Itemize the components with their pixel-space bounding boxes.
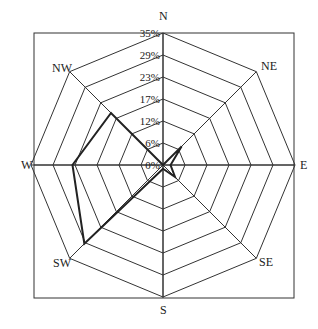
direction-label-ne: NE	[261, 59, 277, 73]
direction-label-e: E	[300, 158, 307, 172]
direction-label-se: SE	[259, 255, 273, 269]
ring-label: 6%	[145, 137, 160, 149]
ring-labels: 0%6%12%17%23%29%35%	[140, 27, 160, 171]
direction-label-s: S	[160, 303, 167, 317]
direction-label-nw: NW	[52, 61, 73, 75]
ring-label: 17%	[140, 93, 160, 105]
axis-spoke	[163, 165, 256, 258]
ring-label: 12%	[140, 115, 160, 127]
direction-label-sw: SW	[53, 256, 72, 270]
direction-label-n: N	[159, 9, 168, 23]
wind-rose-chart: 0%6%12%17%23%29%35% NNEESESSWWNW	[0, 0, 318, 329]
ring-label: 35%	[140, 27, 160, 39]
direction-label-w: W	[21, 158, 33, 172]
ring-label: 23%	[140, 71, 160, 83]
ring-label: 29%	[140, 49, 160, 61]
